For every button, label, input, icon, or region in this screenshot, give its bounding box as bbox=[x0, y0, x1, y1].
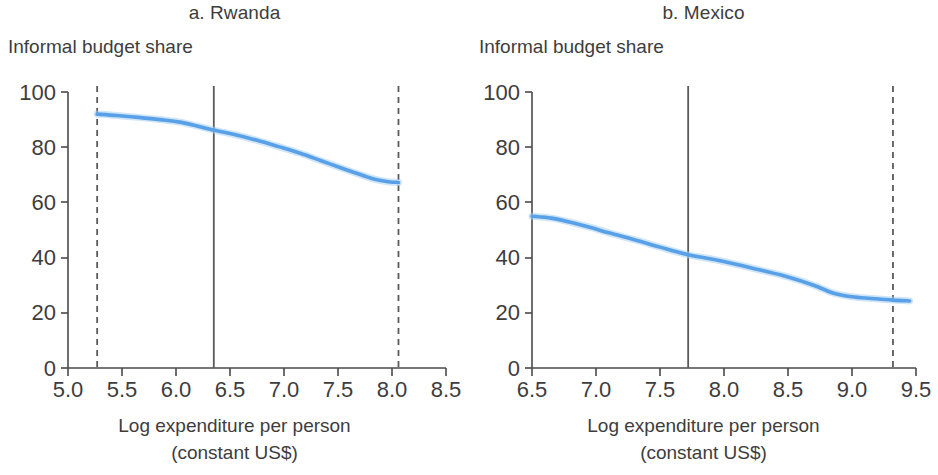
panel-a-x-tick-marks bbox=[68, 368, 446, 376]
y-tick-label: 100 bbox=[483, 80, 520, 105]
x-tick-label: 6.5 bbox=[517, 377, 548, 400]
x-tick-label: 5.0 bbox=[53, 377, 84, 400]
y-tick-label: 100 bbox=[19, 80, 56, 105]
panel-b-plot-area: 100 80 60 40 20 0 bbox=[469, 0, 938, 400]
series-line bbox=[97, 114, 398, 182]
panel-a-rwanda: a. Rwanda Informal budget share 100 80 6… bbox=[0, 0, 469, 475]
series-confidence-band bbox=[532, 216, 910, 301]
panel-a-x-axis-label-line2: (constant US$) bbox=[0, 439, 469, 466]
x-tick-label: 9.0 bbox=[837, 377, 868, 400]
y-tick-label: 80 bbox=[496, 135, 520, 160]
panel-a-y-tick-labels: 100 80 60 40 20 0 bbox=[19, 80, 56, 381]
panel-b-series bbox=[532, 216, 910, 301]
panel-a-reference-lines bbox=[97, 86, 398, 368]
x-tick-label: 8.5 bbox=[431, 377, 462, 400]
y-tick-label: 40 bbox=[496, 245, 520, 270]
panel-a-x-tick-labels: 5.0 5.5 6.0 6.5 7.0 7.5 8.0 8.5 bbox=[53, 377, 462, 400]
y-tick-label: 80 bbox=[32, 135, 56, 160]
panel-b-reference-lines bbox=[688, 86, 893, 368]
panel-b-x-tick-marks bbox=[532, 368, 916, 376]
panel-a-plot-area: 100 80 60 40 20 0 bbox=[0, 0, 469, 400]
panel-a-y-tick-marks bbox=[61, 92, 68, 368]
y-tick-label: 60 bbox=[496, 190, 520, 215]
x-tick-label: 7.0 bbox=[269, 377, 300, 400]
y-tick-label: 20 bbox=[32, 300, 56, 325]
panel-b-mexico: b. Mexico Informal budget share 100 80 6… bbox=[469, 0, 938, 475]
panel-b-y-tick-marks bbox=[525, 92, 532, 368]
panel-b-x-tick-labels: 6.5 7.0 7.5 8.0 8.5 9.0 9.5 bbox=[517, 377, 932, 400]
x-tick-label: 6.0 bbox=[161, 377, 192, 400]
y-tick-label: 40 bbox=[32, 245, 56, 270]
two-panel-line-chart-figure: a. Rwanda Informal budget share 100 80 6… bbox=[0, 0, 938, 475]
x-tick-label: 8.5 bbox=[773, 377, 804, 400]
y-tick-label: 20 bbox=[496, 300, 520, 325]
x-tick-label: 7.5 bbox=[645, 377, 676, 400]
panel-a-series bbox=[97, 114, 398, 182]
x-tick-label: 5.5 bbox=[107, 377, 138, 400]
x-tick-label: 6.5 bbox=[215, 377, 246, 400]
panel-b-y-tick-labels: 100 80 60 40 20 0 bbox=[483, 80, 520, 381]
x-tick-label: 9.5 bbox=[901, 377, 932, 400]
y-tick-label: 60 bbox=[32, 190, 56, 215]
x-tick-label: 8.0 bbox=[377, 377, 408, 400]
panel-a-x-axis-label-line1: Log expenditure per person bbox=[0, 412, 469, 439]
x-tick-label: 7.0 bbox=[581, 377, 612, 400]
panel-b-x-axis-label-line1: Log expenditure per person bbox=[469, 412, 938, 439]
x-tick-label: 7.5 bbox=[323, 377, 354, 400]
panel-b-x-axis-label-line2: (constant US$) bbox=[469, 439, 938, 466]
x-tick-label: 8.0 bbox=[709, 377, 740, 400]
